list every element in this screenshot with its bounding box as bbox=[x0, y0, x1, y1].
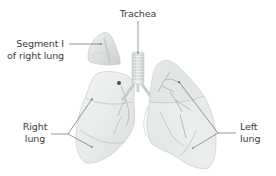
trachea-label: Trachea bbox=[118, 8, 158, 20]
left-lung-label-line1: Left bbox=[240, 121, 270, 133]
segment-i-label-line1: Segment I bbox=[2, 38, 64, 50]
lung-anatomy-figure: Trachea Segment I of right lung Right lu… bbox=[0, 0, 276, 176]
left-lung-label: Left lung bbox=[240, 121, 270, 145]
left-lung-label-line2: lung bbox=[240, 133, 270, 145]
right-lung-shape bbox=[76, 72, 135, 164]
right-lung-label: Right lung bbox=[20, 121, 50, 145]
trachea-label-text: Trachea bbox=[118, 8, 158, 20]
segment-i-label: Segment I of right lung bbox=[2, 38, 64, 62]
left-lung-shape bbox=[144, 60, 216, 168]
segment-i-label-line2: of right lung bbox=[2, 50, 64, 62]
right-lung-label-line2: lung bbox=[20, 133, 50, 145]
lung-illustration bbox=[0, 0, 276, 176]
segment-i-shape bbox=[88, 33, 120, 65]
trachea-shape bbox=[132, 52, 144, 84]
right-lung-label-line1: Right bbox=[20, 121, 50, 133]
